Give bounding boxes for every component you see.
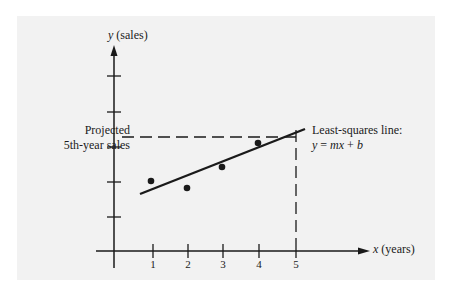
data-point — [255, 140, 262, 147]
x-axis-arrow-icon — [358, 248, 370, 255]
x-axis-unit: (years) — [381, 242, 414, 256]
y-axis-label: y (sales) — [108, 28, 148, 42]
eq-equals: = — [317, 138, 330, 152]
x-axis-var: x — [373, 242, 378, 256]
x-tick-label-3: 3 — [217, 258, 229, 270]
eq-b: b — [357, 138, 363, 152]
x-tick-label-4: 4 — [253, 258, 265, 270]
y-axis-arrow-icon — [111, 45, 118, 56]
projected-sales-annotation: Projected 5th-year sales — [64, 123, 130, 153]
data-point — [219, 164, 226, 171]
x-tick-label-2: 2 — [182, 258, 194, 270]
least-squares-title: Least-squares line: — [312, 123, 402, 138]
least-squares-annotation: Least-squares line: y = mx + b — [312, 123, 402, 153]
y-axis-var: y — [108, 28, 113, 42]
projected-line2: 5th-year sales — [64, 138, 130, 153]
x-axis-label: x (years) — [373, 242, 415, 256]
eq-mx: mx — [330, 138, 344, 152]
least-squares-line — [140, 129, 305, 194]
x-tick-label-1: 1 — [147, 258, 159, 270]
y-axis-unit: (sales) — [116, 28, 147, 42]
x-tick-label-5: 5 — [290, 258, 302, 270]
data-point — [148, 178, 155, 185]
data-point — [184, 185, 191, 192]
eq-plus: + — [344, 138, 357, 152]
least-squares-equation: y = mx + b — [312, 138, 402, 153]
projected-line1: Projected — [64, 123, 130, 138]
